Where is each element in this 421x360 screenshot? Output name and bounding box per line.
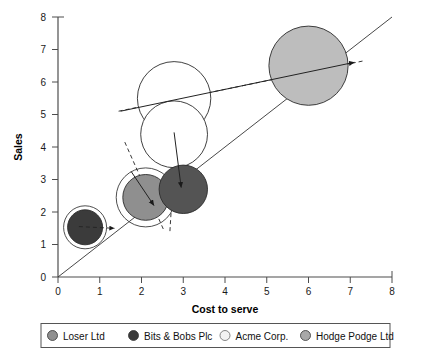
legend-label-acme-corp: Acme Corp. — [236, 331, 289, 342]
x-tick-label-4: 4 — [222, 286, 228, 297]
y-tick-label-1: 1 — [40, 239, 46, 250]
bubble-bits-bobs-plc-2[interactable] — [159, 165, 207, 213]
x-tick-label-6: 6 — [306, 286, 312, 297]
legend-swatch-icon-hodge-podge-ltd — [301, 331, 311, 341]
x-tick-label-1: 1 — [97, 286, 103, 297]
y-axis-ticks: 0 1 2 3 4 5 6 7 8 — [40, 12, 58, 283]
y-tick-label-3: 3 — [40, 174, 46, 185]
y-axis-title: Sales — [12, 133, 24, 161]
y-tick-label-6: 6 — [40, 77, 46, 88]
legend-label-loser-ltd: Loser Ltd — [63, 331, 105, 342]
y-tick-label-8: 8 — [40, 12, 46, 23]
y-tick-label-5: 5 — [40, 109, 46, 120]
x-axis-title: Cost to serve — [192, 303, 259, 315]
x-tick-label-2: 2 — [139, 286, 145, 297]
bubble-group — [68, 26, 348, 245]
bubble-bits-bobs-plc-1[interactable] — [68, 210, 103, 245]
chart-legend: Loser Ltd Bits & Bobs Plc Acme Corp. Hod… — [41, 324, 394, 348]
legend-swatch-icon-acme-corp — [220, 331, 230, 341]
chart-canvas: 0 1 2 3 4 5 6 7 8 0 1 2 3 4 5 — [0, 0, 421, 360]
y-tick-label-7: 7 — [40, 44, 46, 55]
legend-swatch-icon-loser-ltd — [48, 331, 58, 341]
legend-label-bits-bobs-plc: Bits & Bobs Plc — [144, 331, 212, 342]
legend-swatch-icon-bits-bobs-plc — [129, 331, 139, 341]
x-tick-label-5: 5 — [264, 286, 270, 297]
x-tick-label-7: 7 — [347, 286, 353, 297]
y-tick-label-0: 0 — [40, 272, 46, 283]
x-axis-ticks: 0 1 2 3 4 5 6 7 8 — [55, 277, 395, 297]
y-tick-label-4: 4 — [40, 142, 46, 153]
x-tick-label-3: 3 — [180, 286, 186, 297]
x-tick-label-8: 8 — [389, 286, 395, 297]
legend-label-hodge-podge-ltd: Hodge Podge Ltd — [316, 331, 394, 342]
x-tick-label-0: 0 — [55, 286, 61, 297]
y-tick-label-2: 2 — [40, 207, 46, 218]
bubble-chart: 0 1 2 3 4 5 6 7 8 0 1 2 3 4 5 — [0, 0, 421, 360]
